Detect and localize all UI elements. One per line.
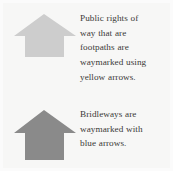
footpath-line-2: way that are bbox=[80, 26, 173, 41]
footpath-line-5: yellow arrows. bbox=[80, 70, 173, 85]
bridleway-line-2: waymarked with bbox=[80, 122, 173, 137]
bridleway-paragraph: Bridleways are waymarked with blue arrow… bbox=[80, 107, 173, 151]
legend-row-footpath: Public rights of way that are footpaths … bbox=[0, 0, 173, 100]
footpath-paragraph: Public rights of way that are footpaths … bbox=[80, 11, 173, 85]
waymarking-legend-figure: Public rights of way that are footpaths … bbox=[0, 0, 173, 171]
legend-row-bridleway: Bridleways are waymarked with blue arrow… bbox=[0, 100, 173, 171]
footpath-text-cell: Public rights of way that are footpaths … bbox=[80, 11, 173, 85]
footpath-arrow-cell bbox=[0, 0, 80, 100]
bridleway-text-cell: Bridleways are waymarked with blue arrow… bbox=[80, 107, 173, 151]
bridleway-arrow-cell bbox=[0, 100, 80, 171]
footpath-line-4: waymarked using bbox=[80, 55, 173, 70]
footpath-line-3: footpaths are bbox=[80, 40, 173, 55]
up-arrow-waymark-blue-icon bbox=[0, 100, 80, 171]
footpath-line-1: Public rights of bbox=[80, 11, 173, 26]
bridleway-line-3: blue arrows. bbox=[80, 136, 173, 151]
bridleway-line-1: Bridleways are bbox=[80, 107, 173, 122]
up-arrow-waymark-yellow-icon bbox=[0, 0, 80, 100]
